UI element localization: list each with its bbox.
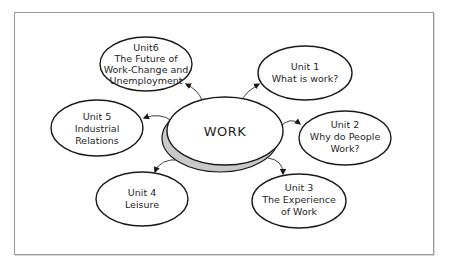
node-unit5-line2: Industrial	[75, 123, 120, 134]
node-unit3-line3: of Work	[281, 206, 318, 217]
edge-work-unit4	[155, 160, 180, 172]
node-unit6-line3: Work-Change and	[104, 64, 189, 75]
node-unit5-line1: Unit 5	[83, 111, 111, 122]
node-unit3: Unit 3 The Experience of Work	[252, 174, 346, 228]
node-unit4-line1: Unit 4	[128, 187, 156, 198]
node-unit4: Unit 4 Leisure	[96, 172, 188, 226]
edge-work-unit6	[186, 84, 202, 100]
node-unit2-line3: Work?	[330, 143, 359, 154]
node-unit6-line4: Unemployment	[109, 75, 182, 86]
node-unit2: Unit 2 Why do People Work?	[299, 111, 391, 165]
center-node-label: WORK	[204, 124, 247, 139]
node-unit1: Unit 1 What is work?	[258, 46, 352, 100]
edge-work-unit5	[144, 116, 172, 121]
node-unit3-line2: The Experience	[261, 194, 336, 205]
edge-work-unit3	[268, 158, 283, 174]
node-unit2-line2: Why do People	[310, 131, 381, 142]
node-unit1-line2: What is work?	[272, 73, 339, 84]
concept-map: WORK Unit6 The Future of Work-Change and…	[0, 0, 450, 266]
node-unit5: Unit 5 Industrial Relations	[51, 100, 143, 156]
center-node-work: WORK	[162, 97, 283, 172]
node-unit1-line1: Unit 1	[291, 61, 319, 72]
node-unit5-line3: Relations	[75, 135, 119, 146]
edge-work-unit1	[241, 84, 259, 100]
node-unit4-line2: Leisure	[125, 199, 159, 210]
node-unit6-line2: The Future of	[113, 53, 178, 64]
node-unit2-line1: Unit 2	[331, 119, 359, 130]
node-unit6-line1: Unit6	[133, 42, 158, 53]
node-unit6: Unit6 The Future of Work-Change and Unem…	[100, 37, 192, 91]
node-unit3-line1: Unit 3	[285, 182, 313, 193]
